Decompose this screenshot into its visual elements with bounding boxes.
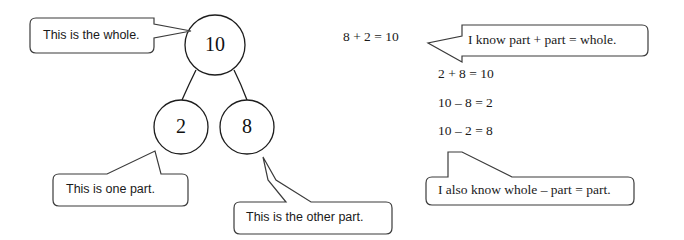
whole-value: 10 — [205, 33, 225, 55]
number-bond-group: 10 2 8 — [154, 15, 274, 154]
worksheet-canvas: 10 2 8 This is the whole. This is one pa… — [0, 0, 684, 240]
one-part-callout-label: This is one part. — [66, 182, 155, 196]
whole-minus-part-callout: I also know whole – part = part. — [426, 152, 634, 205]
equation-3: 10 – 8 = 2 — [438, 95, 493, 110]
other-part-callout-label: This is the other part. — [246, 210, 363, 224]
part-plus-part-callout: I know part + part = whole. — [428, 25, 648, 62]
equation-4: 10 – 2 = 8 — [438, 123, 493, 138]
equation-1: 8 + 2 = 10 — [343, 29, 399, 44]
number-bond-worksheet: 10 2 8 This is the whole. This is one pa… — [0, 0, 684, 240]
whole-minus-part-callout-label: I also know whole – part = part. — [438, 182, 611, 197]
part-plus-part-callout-label: I know part + part = whole. — [468, 32, 616, 47]
whole-callout: This is the whole. — [30, 18, 191, 53]
one-part-callout-bubble — [53, 151, 188, 206]
whole-callout-label: This is the whole. — [43, 28, 140, 42]
bond-link-right — [234, 70, 247, 100]
bond-link-left — [182, 70, 196, 100]
one-part-callout: This is one part. — [53, 151, 188, 206]
equation-2: 2 + 8 = 10 — [438, 66, 494, 81]
part-value-right: 8 — [242, 115, 252, 137]
other-part-callout: This is the other part. — [234, 157, 392, 234]
part-value-left: 2 — [176, 115, 186, 137]
